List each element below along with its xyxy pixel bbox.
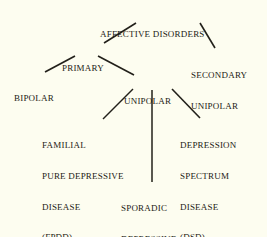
- affective-disorders-tree-diagram: AFFECTIVE DISORDERS PRIMARY SECONDARY UN…: [0, 0, 267, 237]
- node-fpdd-line-4: (FPDD): [42, 232, 124, 237]
- node-bipolar: BIPOLAR: [14, 73, 54, 124]
- node-bipolar-line-1: BIPOLAR: [14, 93, 54, 103]
- node-affective-disorders: AFFECTIVE DISORDERS: [100, 9, 205, 60]
- node-fpdd-line-3: DISEASE: [42, 202, 124, 212]
- node-dsd-line-3: DISEASE: [180, 202, 237, 212]
- node-sporadic-depressive-disease: SPORADIC DEPRESSIVE DISEASE (SDD): [121, 183, 177, 237]
- node-secondary-unipolar-line-1: SECONDARY: [191, 70, 247, 80]
- node-dsd-line-4: (DSD): [180, 232, 237, 237]
- node-fpdd-line-2: PURE DEPRESSIVE: [42, 171, 124, 181]
- node-dsd-line-1: DEPRESSION: [180, 140, 237, 150]
- node-unipolar-line-1: UNIPOLAR: [124, 96, 171, 106]
- node-dsd-line-2: SPECTRUM: [180, 171, 237, 181]
- node-depression-spectrum-disease: DEPRESSION SPECTRUM DISEASE (DSD): [180, 120, 237, 237]
- node-secondary-unipolar-line-2: UNIPOLAR: [191, 101, 247, 111]
- node-fpdd-line-1: FAMILIAL: [42, 140, 124, 150]
- node-primary-line-1: PRIMARY: [62, 63, 104, 73]
- node-sdd-line-1: SPORADIC: [121, 203, 177, 213]
- node-affective-disorders-line-1: AFFECTIVE DISORDERS: [100, 29, 205, 39]
- node-primary: PRIMARY: [62, 43, 104, 94]
- node-unipolar: UNIPOLAR: [124, 76, 171, 127]
- node-sdd-line-2: DEPRESSIVE: [121, 234, 177, 237]
- node-familial-pure-depressive-disease: FAMILIAL PURE DEPRESSIVE DISEASE (FPDD): [42, 120, 124, 237]
